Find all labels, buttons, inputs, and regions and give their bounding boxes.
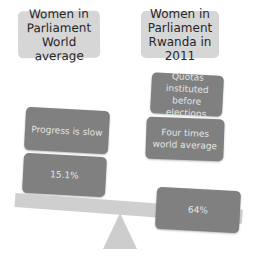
- left-header-line-3: World average: [18, 34, 100, 63]
- progress-slow-box: Progress is slow: [24, 107, 110, 154]
- rwanda-value: 64%: [188, 203, 209, 216]
- left-header-box: Women in Parliament World average: [18, 11, 100, 59]
- progress-slow-label: Progress is slow: [31, 123, 103, 139]
- fulcrum-triangle: [103, 213, 137, 249]
- right-header-line-2: Parliament: [141, 21, 219, 35]
- left-header-text: Women in Parliament World average: [18, 6, 100, 63]
- quotas-text: Quotas instituted before elections: [150, 69, 224, 121]
- rwanda-value-box: 64%: [155, 187, 241, 233]
- four-times-text: Four times world average: [152, 126, 217, 152]
- left-header-line-2: Parliament: [18, 20, 100, 35]
- right-header-line-3: Rwanda in 2011: [141, 35, 219, 63]
- quotas-box: Quotas instituted before elections: [150, 72, 224, 117]
- right-header-box: Women in Parliament Rwanda in 2011: [141, 11, 219, 58]
- four-times-line-2: world average: [152, 138, 217, 152]
- right-header-line-1: Women in: [141, 7, 219, 21]
- left-header-line-1: Women in: [18, 6, 100, 21]
- right-header-text: Women in Parliament Rwanda in 2011: [141, 7, 219, 63]
- world-average-value: 15.1%: [50, 168, 79, 181]
- world-average-value-box: 15.1%: [22, 153, 107, 197]
- four-times-box: Four times world average: [145, 117, 224, 162]
